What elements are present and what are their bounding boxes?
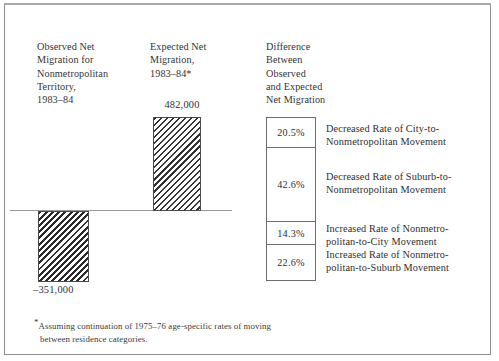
bar-value-observed: –351,000	[33, 284, 95, 295]
difference-label-2: Increased Rate of Nonmetro- politan-to-C…	[326, 222, 491, 249]
footnote-line-1: Assuming continuation of 1975–76 age-spe…	[39, 321, 272, 331]
difference-label-3: Increased Rate of Nonmetro- politan-to-S…	[326, 248, 491, 275]
difference-percent-3: 22.6%	[277, 257, 304, 268]
difference-segmented-box: 20.5% 42.6% 14.3% 22.6%	[266, 117, 316, 281]
difference-segment-2: 14.3%	[267, 222, 315, 246]
difference-percent-0: 20.5%	[277, 127, 304, 138]
bar-expected-net-migration	[153, 117, 201, 211]
figure-footnote: *Assuming continuation of 1975–76 age-sp…	[34, 318, 324, 345]
footnote-line-2: between residence categories.	[34, 333, 324, 346]
difference-percent-2: 14.3%	[277, 228, 304, 239]
column-heading-difference: Difference Between Observed and Expected…	[266, 40, 386, 106]
difference-segment-3: 22.6%	[267, 245, 315, 280]
difference-label-1: Decreased Rate of Suburb-to- Nonmetropol…	[326, 170, 491, 197]
difference-segment-0: 20.5%	[267, 118, 315, 148]
bar-observed-net-migration	[38, 211, 89, 282]
bar-value-expected: 482,000	[152, 99, 212, 110]
difference-label-0: Decreased Rate of City-to- Nonmetropolit…	[326, 122, 491, 149]
difference-segment-1: 42.6%	[267, 148, 315, 222]
difference-percent-1: 42.6%	[277, 179, 304, 190]
figure-page: Observed Net Migration for Nonmetropolit…	[0, 0, 499, 361]
bar-chart: 482,000 –351,000	[0, 0, 250, 300]
